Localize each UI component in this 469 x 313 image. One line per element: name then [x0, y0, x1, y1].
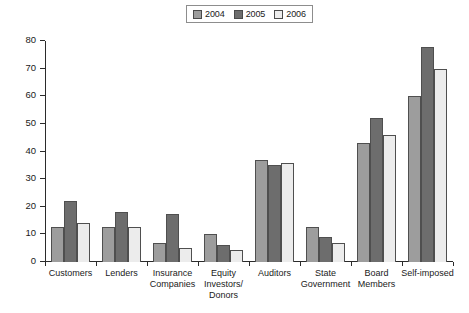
x-tick: [453, 262, 454, 266]
category-label: Self-imposed: [397, 268, 458, 279]
y-tick: 80: [40, 40, 45, 41]
bar: [421, 47, 434, 262]
y-tick: 20: [40, 206, 45, 207]
x-tick: [147, 262, 148, 266]
bar: [268, 165, 281, 262]
x-tick: [96, 262, 97, 266]
bar: [166, 214, 179, 262]
x-tick: [249, 262, 250, 266]
bar: [319, 237, 332, 262]
bar: [230, 250, 243, 262]
legend-swatch-2006-icon: [274, 10, 283, 19]
bar: [153, 243, 166, 262]
bar-group: [102, 41, 141, 262]
bar-group: [255, 41, 294, 262]
bar: [434, 69, 447, 262]
legend-label-2004: 2004: [205, 10, 225, 19]
y-tick-label: 60: [25, 89, 36, 100]
y-tick-label: 40: [25, 145, 36, 156]
bar: [64, 201, 77, 262]
y-tick-label: 10: [25, 227, 36, 238]
bar: [115, 212, 128, 262]
bar: [102, 227, 115, 262]
bar-group: [204, 41, 243, 262]
chart-legend: 2004 2005 2006: [186, 5, 313, 23]
bar-group: [51, 41, 90, 262]
bar: [306, 227, 319, 262]
bar: [179, 248, 192, 262]
x-tick: [402, 262, 403, 266]
bar: [77, 223, 90, 262]
bar: [204, 234, 217, 262]
legend-item-2006: 2006: [274, 10, 306, 19]
bar-group: [357, 41, 396, 262]
bar: [383, 135, 396, 262]
legend-swatch-2004-icon: [193, 10, 202, 19]
bar-chart: 2004 2005 2006 01020304050607080 Custome…: [0, 0, 469, 313]
bar-group: [306, 41, 345, 262]
x-tick: [198, 262, 199, 266]
plot-area: 01020304050607080: [45, 41, 453, 262]
bar: [255, 160, 268, 262]
y-tick-label: 0: [31, 255, 36, 266]
bar: [51, 227, 64, 262]
y-tick: 30: [40, 178, 45, 179]
bar-group: [153, 41, 192, 262]
y-tick-label: 80: [25, 34, 36, 45]
y-tick-label: 50: [25, 117, 36, 128]
bar: [357, 143, 370, 262]
y-tick: 70: [40, 68, 45, 69]
x-tick: [45, 262, 46, 266]
y-tick: 10: [40, 233, 45, 234]
legend-swatch-2005-icon: [234, 10, 243, 19]
legend-label-2005: 2005: [246, 10, 266, 19]
legend-item-2004: 2004: [193, 10, 225, 19]
y-tick: 40: [40, 151, 45, 152]
legend-item-2005: 2005: [234, 10, 266, 19]
x-tick: [300, 262, 301, 266]
y-tick-label: 30: [25, 172, 36, 183]
x-tick: [351, 262, 352, 266]
bar: [217, 245, 230, 262]
bar: [408, 96, 421, 262]
legend-label-2006: 2006: [286, 10, 306, 19]
y-tick: 50: [40, 123, 45, 124]
y-tick: 60: [40, 95, 45, 96]
bar-group: [408, 41, 447, 262]
bar: [370, 118, 383, 262]
bar: [128, 227, 141, 262]
y-tick-label: 70: [25, 62, 36, 73]
y-axis: [45, 41, 46, 262]
y-tick-label: 20: [25, 200, 36, 211]
bar: [332, 243, 345, 262]
bar: [281, 163, 294, 262]
